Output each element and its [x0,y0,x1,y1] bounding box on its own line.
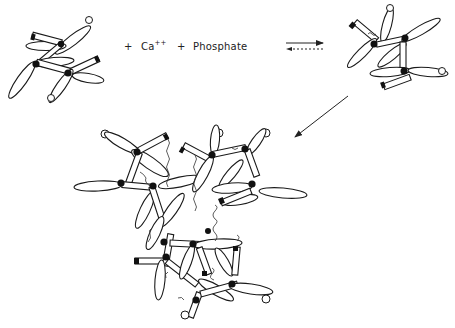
junction-node [58,41,64,47]
calcium-symbol: Ca [141,41,155,52]
junction-node [64,69,71,76]
calcium-label: Ca++ [141,41,167,52]
aggregation-arrow-icon [295,96,348,137]
equilibrium-arrows [286,43,323,51]
aggregate-cluster [74,125,308,319]
plus-sign-2: + [177,41,186,52]
junction-node [401,68,408,75]
bound-complex-molecule [345,5,449,90]
plus-sign-1: + [124,41,133,52]
phosphate-label: Phosphate [193,41,247,52]
junction-node [371,41,378,48]
calcium-charge: ++ [155,39,167,47]
monomer-molecule [5,17,104,105]
junction-node [402,35,409,42]
junction-node [32,60,39,67]
